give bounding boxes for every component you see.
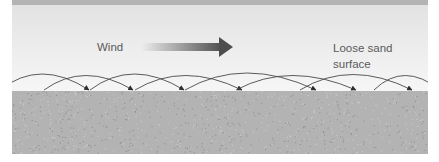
- wind-direction-arrow-icon: [142, 37, 233, 57]
- trajectory-arc: [236, 76, 356, 91]
- trajectory-arc: [44, 76, 133, 91]
- sand-grain-trajectories: [12, 73, 428, 90]
- saltation-diagram: Wind Loose sand surface: [12, 0, 428, 154]
- diagram-overlay: [12, 0, 428, 154]
- trajectory-arc: [374, 76, 428, 91]
